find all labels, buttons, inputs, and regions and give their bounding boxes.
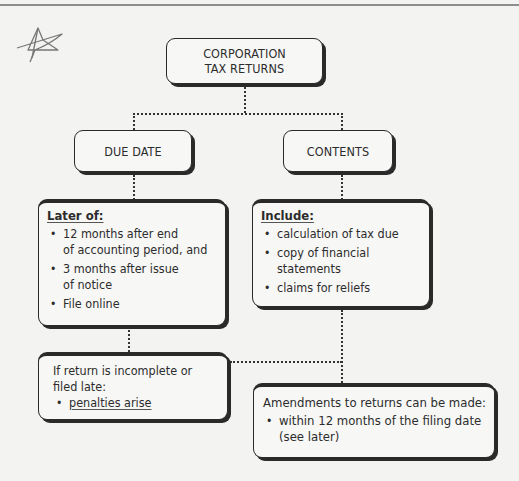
list-item: penalties arise — [53, 395, 219, 411]
amendments-box: Amendments to returns can be made: withi… — [253, 383, 495, 458]
due-date-detail-box: Later of: 12 months after end of account… — [38, 199, 226, 326]
penalties-line1: If return is incomplete or — [53, 363, 219, 379]
connector-to-due-date — [133, 113, 135, 130]
amendments-heading: Amendments to returns can be made: — [263, 395, 486, 411]
penalties-line2: filed late: — [53, 379, 219, 395]
star-doodle-icon — [10, 20, 65, 65]
connector-to-contents — [341, 113, 343, 130]
list-item: 3 months after issue of notice — [47, 261, 217, 293]
list-item: within 12 months of the filing date (see… — [263, 413, 486, 445]
contents-label: CONTENTS — [307, 144, 369, 159]
connector-penalties-to-amendments — [230, 361, 342, 363]
due-date-heading: Later of: — [47, 208, 217, 224]
due-date-list: 12 months after end of accounting period… — [47, 226, 217, 312]
connector-due-date-down — [133, 175, 135, 200]
contents-box: CONTENTS — [283, 130, 393, 172]
connector-title-down — [244, 87, 246, 113]
list-item: File online — [47, 296, 217, 312]
list-item: claims for reliefs — [261, 280, 421, 296]
connector-due-date-to-penalties — [128, 330, 130, 352]
list-item: 12 months after end of accounting period… — [47, 226, 217, 258]
list-item: calculation of tax due — [261, 226, 421, 242]
connector-branch-horizontal — [133, 113, 343, 115]
penalties-box: If return is incomplete or filed late: p… — [38, 352, 228, 420]
contents-list: calculation of tax due copy of financial… — [261, 226, 421, 296]
title-line1: CORPORATION — [203, 46, 286, 61]
list-item: copy of financial statements — [261, 245, 421, 277]
title-line2: TAX RETURNS — [205, 61, 284, 76]
contents-detail-box: Include: calculation of tax due copy of … — [252, 199, 430, 307]
amendments-list: within 12 months of the filing date (see… — [263, 413, 486, 445]
connector-contents-down — [341, 175, 343, 200]
penalties-list: penalties arise — [53, 395, 219, 411]
top-rule — [0, 4, 519, 6]
connector-contents-to-amendments — [341, 310, 343, 383]
title-box: CORPORATION TAX RETURNS — [166, 38, 323, 84]
due-date-box: DUE DATE — [74, 130, 192, 172]
due-date-label: DUE DATE — [104, 144, 162, 159]
contents-heading: Include: — [261, 208, 421, 224]
